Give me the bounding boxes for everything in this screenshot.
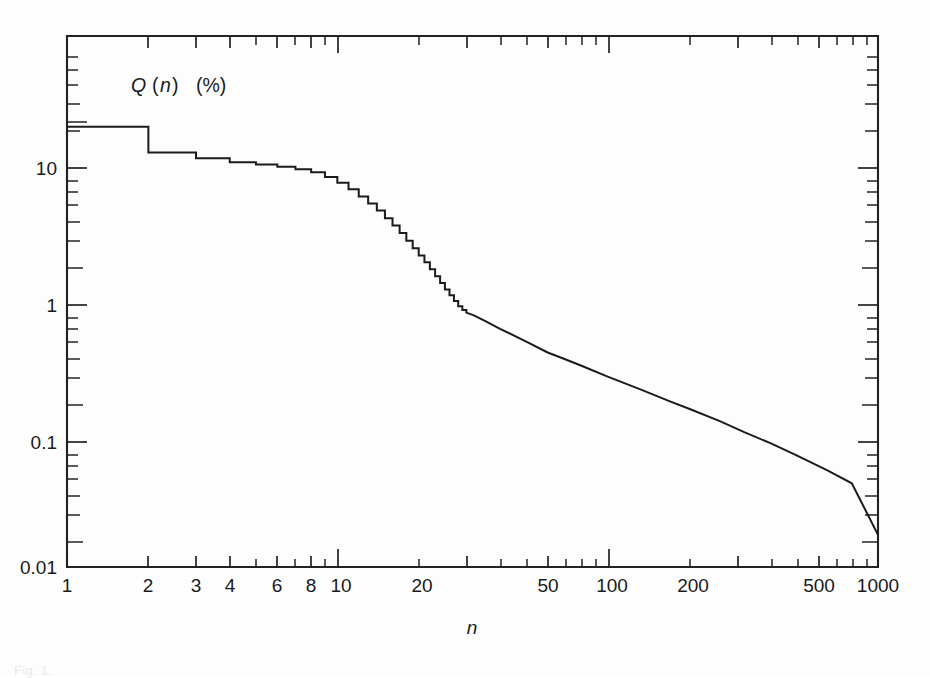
- annotation-symbol-q: Q: [131, 74, 146, 96]
- plot-frame: [67, 36, 878, 567]
- x-tick-label-20: 20: [411, 575, 432, 596]
- y-axis-ticks-left: [67, 49, 87, 542]
- x-tick-label-50: 50: [537, 575, 558, 596]
- y-tick-label-0-01: 0.01: [20, 557, 57, 578]
- annotation-paren-open: (: [152, 74, 159, 96]
- x-tick-label-8: 8: [306, 575, 317, 596]
- data-curve-q-of-n: [67, 127, 878, 535]
- y-axis-ticks-right: [858, 57, 878, 542]
- x-tick-label-2: 2: [143, 575, 154, 596]
- x-tick-label-1: 1: [62, 575, 73, 596]
- x-axis-ticks-top: [148, 36, 867, 53]
- y-tick-label-1: 1: [46, 295, 57, 316]
- annotation-arg-n: n: [160, 74, 171, 96]
- x-tick-label-200: 200: [677, 575, 709, 596]
- x-tick-label-4: 4: [225, 575, 236, 596]
- annotation-paren-close: ): [172, 74, 179, 96]
- figure-caption: Fig. 1.: [14, 663, 52, 678]
- y-tick-labels: 10 1 0.1 0.01: [20, 158, 57, 578]
- x-tick-label-1000: 1000: [857, 575, 899, 596]
- y-tick-label-10: 10: [36, 158, 57, 179]
- x-tick-label-10: 10: [330, 575, 351, 596]
- x-tick-label-3: 3: [191, 575, 202, 596]
- x-tick-label-100: 100: [596, 575, 628, 596]
- x-tick-label-500: 500: [803, 575, 835, 596]
- x-axis-ticks-bottom: [67, 549, 878, 567]
- x-axis-title: n: [467, 617, 478, 638]
- x-tick-label-6: 6: [272, 575, 283, 596]
- annotation-unit-percent: (%): [196, 74, 226, 96]
- x-tick-labels: 1 2 3 4 6 8 10 20 50 100 200 500 1000: [62, 575, 899, 596]
- plot-annotation-q-of-n: Q ( n ) (%): [131, 74, 226, 96]
- y-tick-label-0-1: 0.1: [31, 432, 57, 453]
